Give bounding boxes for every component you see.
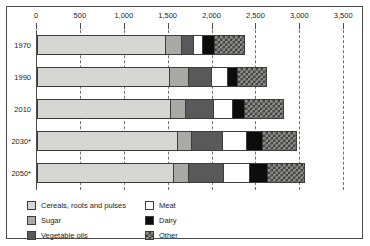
legend-item: Cereals, roots and pulses (27, 200, 145, 211)
bar-segment (177, 131, 191, 151)
bar-segment (185, 99, 213, 119)
legend-item-label: Vegetable oils (41, 231, 88, 240)
bar-row: 2030* (36, 131, 356, 151)
chart-legend: Cereals, roots and pulsesSugarVegetable … (27, 200, 252, 241)
bar-segment (246, 131, 261, 151)
legend-item: Vegetable oils (27, 230, 145, 241)
bar-segment (165, 35, 181, 55)
bar-segment (244, 99, 284, 119)
bar-segment (227, 67, 237, 87)
legend-swatch-icon (27, 231, 36, 240)
legend-item: Dairy (145, 215, 245, 226)
bar-segment (214, 35, 245, 55)
bar-row: 1990 (36, 67, 356, 87)
bar-segment (191, 131, 222, 151)
bar-segment (237, 67, 267, 87)
x-tick-mark (36, 23, 37, 29)
x-tick-mark (124, 23, 125, 29)
x-tick-label: 500 (74, 12, 87, 20)
legend-item-label: Other (159, 231, 178, 240)
y-axis-category-label: 2050* (11, 169, 31, 178)
x-tick-label: 3,500 (334, 12, 353, 20)
legend-item-label: Cereals, roots and pulses (41, 201, 126, 210)
legend-swatch-icon (27, 201, 36, 210)
stacked-bar (37, 99, 284, 119)
x-tick-mark (255, 23, 256, 29)
x-tick-mark (299, 23, 300, 29)
legend-column-left: Cereals, roots and pulsesSugarVegetable … (27, 200, 145, 241)
bar-segment (202, 35, 214, 55)
legend-item: Other (145, 230, 245, 241)
legend-swatch-icon (145, 216, 154, 225)
stacked-bar (37, 131, 297, 151)
x-tick-label: 0 (34, 12, 38, 20)
bar-segment (169, 67, 188, 87)
bar-row: 2050* (36, 163, 356, 183)
legend-swatch-icon (145, 201, 154, 210)
x-tick-mark (168, 23, 169, 29)
bar-segment (193, 35, 203, 55)
x-tick-label: 3,000 (290, 12, 309, 20)
stacked-bar (37, 163, 305, 183)
legend-item-label: Meat (159, 201, 176, 210)
plot-area: 05001,0001,5002,0002,5003,0003,500 19701… (36, 18, 356, 190)
bar-segment (232, 99, 244, 119)
legend-swatch-icon (27, 216, 36, 225)
y-axis-category-label: 2010 (14, 105, 31, 114)
legend-swatch-icon (145, 231, 154, 240)
x-tick-mark (80, 23, 81, 29)
x-tick-label: 2,000 (202, 12, 221, 20)
bar-row: 1970 (36, 35, 356, 55)
bar-segment (267, 163, 305, 183)
bar-segment (223, 163, 249, 183)
x-tick-mark (212, 23, 213, 29)
legend-column-right: MeatDairyOther (145, 200, 245, 241)
bar-segment (37, 163, 173, 183)
x-tick-label: 1,000 (114, 12, 133, 20)
chart-frame: 05001,0001,5002,0002,5003,0003,500 19701… (6, 6, 363, 239)
bar-segment (173, 163, 187, 183)
bar-segment (262, 131, 298, 151)
bar-segment (170, 99, 185, 119)
x-tick-label: 2,500 (246, 12, 265, 20)
bar-segment (181, 35, 192, 55)
bar-segment (188, 163, 223, 183)
bar-segment (188, 67, 212, 87)
legend-item-label: Dairy (159, 216, 177, 225)
bar-segment (37, 131, 177, 151)
bar-segment (37, 67, 169, 87)
y-axis-category-label: 1970 (14, 41, 31, 50)
x-tick-label: 1,500 (158, 12, 177, 20)
legend-item: Sugar (27, 215, 145, 226)
y-axis-category-label: 1990 (14, 73, 31, 82)
bar-row: 2010 (36, 99, 356, 119)
legend-item-label: Sugar (41, 216, 61, 225)
y-axis-category-label: 2030* (11, 137, 31, 146)
legend-item: Meat (145, 200, 245, 211)
bar-segment (211, 67, 227, 87)
stacked-bar (37, 35, 245, 55)
bar-segment (213, 99, 232, 119)
bar-segment (249, 163, 267, 183)
bar-segment (37, 35, 165, 55)
stacked-bar (37, 67, 267, 87)
x-tick-mark (343, 23, 344, 29)
bar-segment (222, 131, 247, 151)
bar-segment (37, 99, 170, 119)
